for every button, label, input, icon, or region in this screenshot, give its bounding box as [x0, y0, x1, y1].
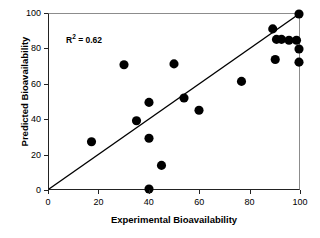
y-tick-mark: [44, 119, 48, 120]
data-point: [194, 106, 203, 115]
y-tick-label: 0: [8, 185, 41, 195]
x-tick-label: 60: [194, 197, 204, 207]
data-point: [119, 60, 128, 69]
data-point: [169, 59, 178, 68]
data-point: [268, 24, 277, 33]
x-tick-mark: [48, 190, 49, 194]
data-point: [144, 134, 153, 143]
data-point: [157, 161, 166, 170]
data-point: [294, 44, 303, 53]
y-tick-label: 40: [8, 114, 41, 124]
x-tick-mark: [250, 190, 251, 194]
data-point: [292, 36, 301, 45]
data-point: [294, 58, 303, 67]
data-point: [179, 93, 188, 102]
data-point: [87, 137, 96, 146]
y-tick-label: 20: [8, 150, 41, 160]
y-tick-mark: [44, 13, 48, 14]
x-tick-mark: [199, 190, 200, 194]
r-squared-suffix: = 0.62: [76, 35, 102, 45]
x-tick-mark: [98, 190, 99, 194]
x-tick-mark: [300, 190, 301, 194]
r-squared-annotation: R2 = 0.62: [66, 33, 102, 45]
data-point-group: [87, 9, 304, 193]
data-point: [144, 98, 153, 107]
data-point: [294, 9, 303, 18]
y-tick-mark: [44, 190, 48, 191]
y-tick-mark: [44, 84, 48, 85]
data-point: [132, 116, 141, 125]
x-tick-label: 100: [292, 197, 307, 207]
y-tick-label: 100: [8, 8, 41, 18]
y-tick-label: 80: [8, 43, 41, 53]
x-tick-label: 80: [245, 197, 255, 207]
data-point: [237, 77, 246, 86]
scatter-plot-figure: Experimental Bioavailability Predicted B…: [0, 0, 320, 238]
x-axis-label: Experimental Bioavailability: [48, 214, 300, 225]
data-point: [271, 55, 280, 64]
y-tick-mark: [44, 155, 48, 156]
x-tick-label: 20: [93, 197, 103, 207]
x-tick-mark: [149, 190, 150, 194]
x-tick-label: 40: [144, 197, 154, 207]
x-tick-label: 0: [45, 197, 50, 207]
y-tick-mark: [44, 48, 48, 49]
y-tick-label: 60: [8, 79, 41, 89]
